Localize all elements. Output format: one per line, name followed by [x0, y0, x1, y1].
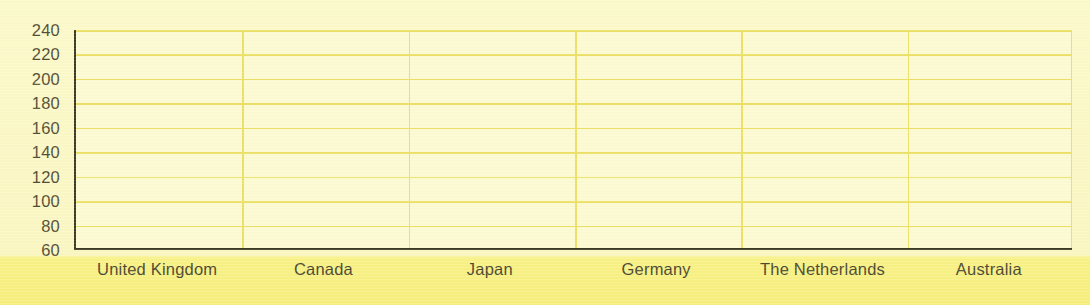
- y-axis-tick-label: 160: [2, 120, 60, 136]
- y-axis-tick-label: 120: [2, 169, 60, 185]
- x-axis-tick-label: Australia: [956, 258, 1022, 280]
- gridline-horizontal: [76, 54, 1072, 56]
- x-axis-tick-label: Japan: [467, 258, 513, 280]
- y-axis-tick-label: 240: [2, 22, 60, 38]
- gridline-horizontal: [76, 249, 1072, 251]
- y-axis-tick-label: 200: [2, 71, 60, 87]
- gridline-horizontal: [76, 128, 1072, 130]
- plot-right-edge: [1071, 30, 1073, 248]
- gridline-vertical: [409, 30, 411, 248]
- x-axis-tick-label: United Kingdom: [97, 258, 217, 280]
- x-axis-tick-label: The Netherlands: [760, 258, 885, 280]
- plot-area: [74, 30, 1072, 250]
- y-axis-tick-label: 220: [2, 46, 60, 62]
- gridline-vertical: [908, 30, 910, 248]
- y-axis-tick-label: 140: [2, 144, 60, 160]
- y-axis-tick-label: 60: [2, 242, 60, 258]
- x-axis-tick-label: Germany: [622, 258, 691, 280]
- y-axis-tick-label: 180: [2, 95, 60, 111]
- y-axis-tick-labels: 2402202001801601401201008060: [0, 0, 68, 305]
- x-axis-category-labels: United KingdomCanadaJapanGermanyThe Neth…: [74, 258, 1072, 288]
- y-axis-tick-label: 80: [2, 218, 60, 234]
- gridline-vertical: [575, 30, 577, 248]
- x-axis-tick-label: Canada: [294, 258, 353, 280]
- gridline-vertical: [741, 30, 743, 248]
- gridline-horizontal: [76, 226, 1072, 228]
- gridline-horizontal: [76, 79, 1072, 81]
- gridline-horizontal: [76, 201, 1072, 203]
- chart-figure: 2402202001801601401201008060 United King…: [0, 0, 1090, 305]
- gridline-horizontal: [76, 30, 1072, 32]
- gridline-vertical: [242, 30, 244, 248]
- gridline-horizontal: [76, 152, 1072, 154]
- gridline-horizontal: [76, 177, 1072, 179]
- gridline-horizontal: [76, 103, 1072, 105]
- y-axis-tick-label: 100: [2, 193, 60, 209]
